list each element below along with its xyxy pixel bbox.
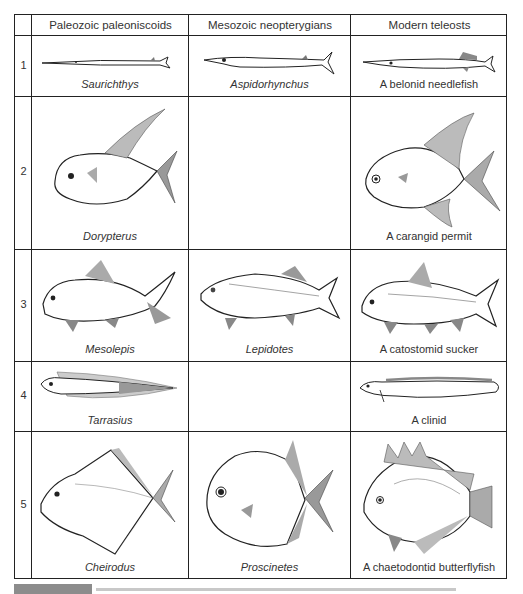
fish-illustration-saurichthys (32, 54, 188, 72)
species-label: Dorypterus (32, 230, 188, 242)
fish-convergence-table: Paleozoic paleoniscoids Mesozoic neopter… (14, 14, 507, 579)
fish-illustration-clinid (351, 370, 507, 404)
fish-illustration-mesolepis (32, 254, 188, 334)
fish-illustration-proscinetes (189, 434, 350, 558)
species-label: Lepidotes (189, 343, 350, 355)
cell-aspidorhynchus: Aspidorhynchus (189, 36, 350, 96)
fish-illustration-chaetodontid-butterflyfish (351, 434, 507, 558)
cell-belonid-needlefish: A belonid needlefish (351, 36, 507, 96)
cell-empty-row4-mesozoic (189, 362, 350, 431)
cell-empty-row2-mesozoic (189, 97, 350, 249)
cell-proscinetes: Proscinetes (189, 432, 350, 579)
fish-illustration-catostomid-sucker (351, 254, 507, 334)
cell-dorypterus: Dorypterus (32, 97, 188, 249)
cell-carangid-permit: A carangid permit (351, 97, 507, 249)
species-label: Mesolepis (32, 343, 188, 355)
figure-caption-truncated (96, 584, 506, 594)
species-label: A catostomid sucker (351, 343, 507, 355)
row-number-4: 4 (15, 389, 32, 401)
fish-illustration-carangid-permit (351, 99, 507, 229)
fish-illustration-aspidorhynchus (189, 50, 350, 76)
species-label: A chaetodontid butterflyfish (351, 561, 507, 573)
cell-clinid: A clinid (351, 362, 507, 431)
cell-catostomid-sucker: A catostomid sucker (351, 250, 507, 361)
row-number-5: 5 (15, 498, 32, 510)
species-label: A carangid permit (351, 230, 507, 242)
cell-cheirodus: Cheirodus (32, 432, 188, 579)
fish-illustration-tarrasius (32, 368, 188, 408)
species-label: Proscinetes (189, 561, 350, 573)
fish-illustration-belonid (351, 50, 507, 76)
row-number-3: 3 (15, 298, 32, 310)
cell-lepidotes: Lepidotes (189, 250, 350, 361)
column-header-modern: Modern teleosts (351, 15, 508, 36)
species-label: A belonid needlefish (351, 78, 507, 90)
figure-label-bar (14, 584, 92, 594)
column-header-mesozoic: Mesozoic neopterygians (189, 15, 351, 36)
fish-illustration-lepidotes (189, 260, 350, 334)
species-label: Tarrasius (32, 414, 188, 426)
species-label: A clinid (351, 414, 507, 426)
fish-illustration-dorypterus (32, 103, 188, 223)
cell-mesolepis: Mesolepis (32, 250, 188, 361)
row-number-1: 1 (15, 59, 32, 71)
species-label: Aspidorhynchus (189, 78, 350, 90)
species-label: Cheirodus (32, 561, 188, 573)
fish-illustration-cheirodus (32, 436, 188, 556)
row-number-2: 2 (15, 165, 32, 177)
cell-tarrasius: Tarrasius (32, 362, 188, 431)
species-label: Saurichthys (32, 78, 188, 90)
cell-saurichthys: Saurichthys (32, 36, 188, 96)
column-header-paleozoic: Paleozoic paleoniscoids (32, 15, 189, 36)
cell-chaetodontid-butterflyfish: A chaetodontid butterflyfish (351, 432, 507, 579)
